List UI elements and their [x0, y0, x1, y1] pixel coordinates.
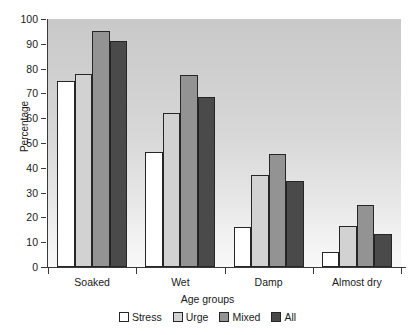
y-tick-label: 90	[10, 39, 38, 49]
legend-swatch-icon	[119, 312, 129, 322]
x-axis-label: Age groups	[0, 293, 415, 305]
bar-damp-mixed	[269, 154, 287, 267]
x-tick-label: Soaked	[74, 276, 110, 288]
y-tick-mark	[41, 267, 46, 268]
x-axis-line	[41, 267, 406, 268]
bar-damp-urge	[251, 175, 269, 267]
y-tick-mark	[41, 69, 46, 70]
x-tick-mark	[48, 268, 49, 274]
legend-label: All	[284, 311, 296, 323]
y-axis-line	[47, 19, 48, 268]
bar-almost-dry-mixed	[357, 205, 375, 267]
legend-label: Mixed	[232, 311, 260, 323]
legend-item-all[interactable]: All	[271, 311, 296, 323]
y-tick-mark	[41, 118, 46, 119]
x-tick-label: Wet	[171, 276, 189, 288]
bar-almost-dry-stress	[322, 252, 340, 267]
x-tick-label: Damp	[255, 276, 283, 288]
bar-almost-dry-urge	[339, 226, 357, 267]
x-tick-label: Almost dry	[332, 276, 382, 288]
legend-label: Urge	[186, 311, 209, 323]
y-tick-mark	[41, 19, 46, 20]
y-tick-label: 30	[10, 188, 38, 198]
bar-wet-urge	[163, 113, 181, 267]
y-tick-label: 100	[10, 14, 38, 24]
y-tick-mark	[41, 93, 46, 94]
x-tick-mark	[225, 268, 226, 274]
y-tick-label: 20	[10, 212, 38, 222]
y-tick-label: 80	[10, 64, 38, 74]
bar-wet-stress	[145, 152, 163, 267]
y-tick-label: 0	[10, 262, 38, 272]
bar-soaked-all	[110, 41, 128, 267]
y-tick-label: 10	[10, 237, 38, 247]
bar-damp-all	[286, 181, 304, 267]
x-tick-mark	[313, 268, 314, 274]
bar-damp-stress	[234, 227, 252, 267]
bar-wet-mixed	[180, 75, 198, 267]
y-tick-mark	[41, 44, 46, 45]
legend-swatch-icon	[219, 312, 229, 322]
bar-soaked-urge	[75, 74, 93, 267]
bar-soaked-stress	[57, 81, 75, 267]
y-tick-mark	[41, 242, 46, 243]
bar-soaked-mixed	[92, 31, 110, 267]
y-axis-label: Percentage	[19, 77, 30, 177]
bar-wet-all	[198, 97, 216, 267]
legend-item-stress[interactable]: Stress	[119, 311, 162, 323]
legend-item-mixed[interactable]: Mixed	[219, 311, 260, 323]
bar-chart: 0102030405060708090100 Percentage Age gr…	[0, 0, 415, 335]
bar-almost-dry-all	[374, 234, 392, 267]
y-tick-mark	[41, 217, 46, 218]
x-tick-mark	[136, 268, 137, 274]
legend-swatch-icon	[271, 312, 281, 322]
legend-label: Stress	[132, 311, 162, 323]
x-tick-mark	[401, 268, 402, 274]
y-tick-mark	[41, 143, 46, 144]
y-tick-mark	[41, 193, 46, 194]
legend-item-urge[interactable]: Urge	[173, 311, 209, 323]
chart-legend: StressUrgeMixedAll	[0, 311, 415, 323]
y-tick-mark	[41, 168, 46, 169]
legend-swatch-icon	[173, 312, 183, 322]
